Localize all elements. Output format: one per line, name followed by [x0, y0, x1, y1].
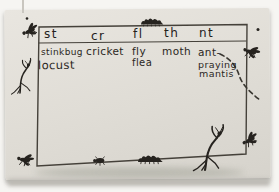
column-header-st: st — [44, 28, 58, 40]
word-cricket: cricket — [86, 46, 124, 57]
fly-icon — [20, 20, 41, 40]
word-fly: fly — [132, 46, 146, 57]
speck-dot — [26, 17, 29, 20]
fly-icon — [242, 43, 262, 61]
word-moth: moth — [162, 46, 191, 57]
word-flea: flea — [132, 58, 152, 68]
fly-icon — [16, 152, 35, 168]
beetle-icon — [93, 157, 104, 166]
caterpillar-icon — [138, 155, 163, 164]
column-header-fl: fl — [133, 28, 144, 40]
column-header-cr: cr — [91, 30, 106, 42]
word-mantis: mantis — [199, 69, 234, 79]
word-locust: locust — [38, 60, 75, 72]
word-stinkbug: stinkbug — [41, 48, 83, 57]
word-ant: ant- — [198, 47, 221, 58]
column-header-nt: nt — [199, 27, 214, 39]
praying-mantis-icon — [191, 125, 225, 171]
column-header-th: th — [164, 27, 179, 39]
speck-dot — [257, 28, 260, 31]
fly-icon — [239, 129, 261, 149]
photo-of-handdrawn-chart: st cr fl th nt stinkbug locust cricket f… — [0, 0, 279, 192]
header-underline — [39, 41, 247, 43]
praying-mantis-icon — [7, 58, 35, 94]
